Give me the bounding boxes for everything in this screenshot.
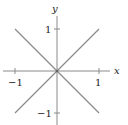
x-axis-label: x [114, 65, 120, 76]
x-tick-label-neg1: −1 [8, 77, 23, 88]
graph: y x −1 1 1 −1 [0, 0, 128, 125]
y-tick-label-neg1: −1 [37, 108, 52, 119]
x-tick-label-1: 1 [95, 77, 101, 88]
origin-point [56, 70, 59, 73]
y-axis-label: y [51, 3, 58, 14]
y-tick-label-1: 1 [45, 24, 51, 35]
